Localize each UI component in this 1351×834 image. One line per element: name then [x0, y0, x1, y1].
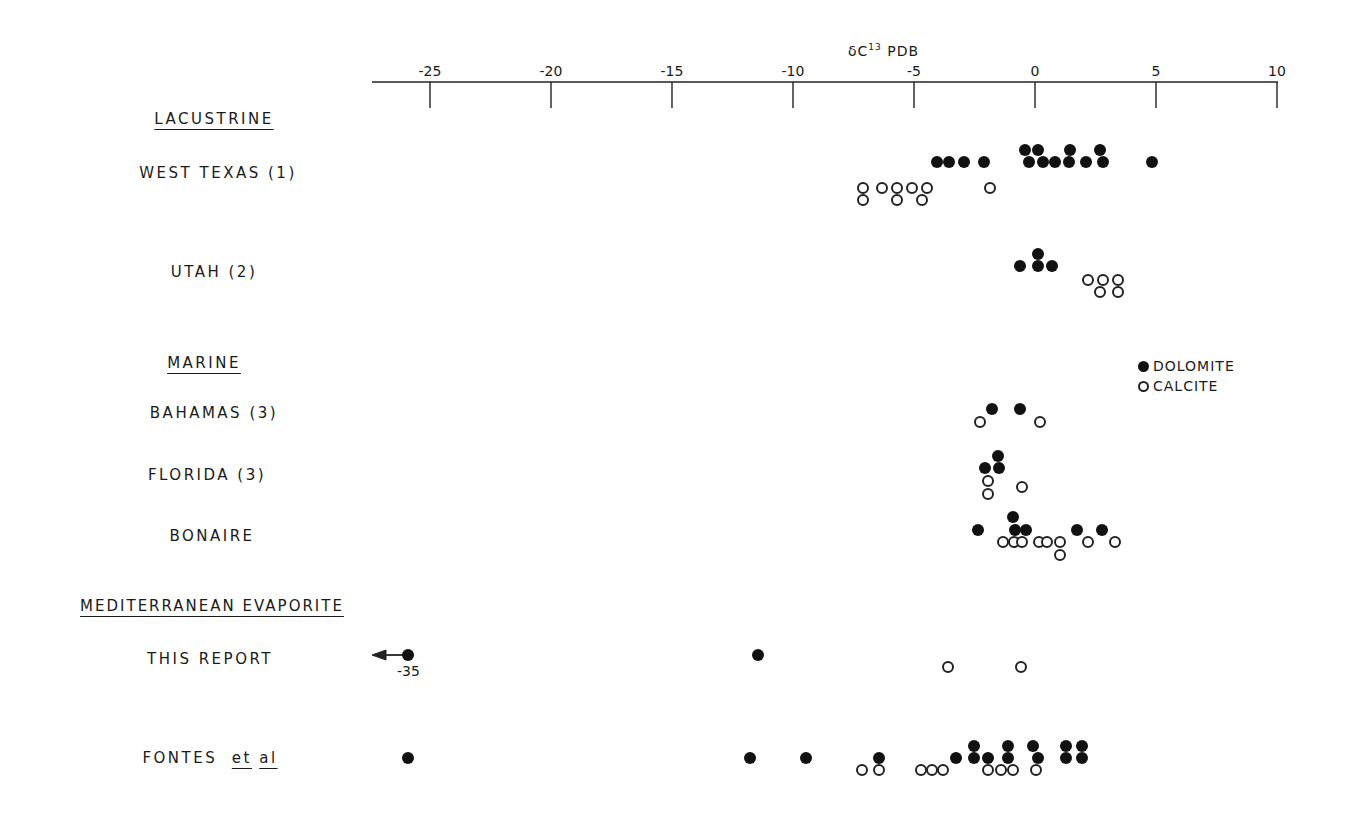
x-tick-label: -25: [419, 63, 442, 79]
legend-item-calcite: CALCITE: [1138, 376, 1235, 396]
dolomite-point: [1014, 403, 1026, 415]
dolomite-point: [1020, 524, 1032, 536]
dolomite-point: [1007, 511, 1019, 523]
x-tick-label: 0: [1031, 63, 1040, 79]
dolomite-point: [1064, 144, 1076, 156]
dolomite-point: [968, 740, 980, 752]
legend-item-dolomite: DOLOMITE: [1138, 356, 1235, 376]
category-bonaire: BONAIRE: [169, 527, 254, 545]
group-header-lacustrine: LACUSTRINE: [154, 110, 273, 128]
dolomite-point: [958, 156, 970, 168]
calcite-point: [857, 182, 869, 194]
dolomite-point: [986, 403, 998, 415]
dolomite-point: [873, 752, 885, 764]
dolomite-point: [1032, 260, 1044, 272]
dolomite-point: [1037, 156, 1049, 168]
x-tick-label: 10: [1268, 63, 1286, 79]
calcite-point: [1054, 536, 1066, 548]
dolomite-point: [402, 649, 414, 661]
x-tick-label: -15: [661, 63, 684, 79]
x-tick-label: 5: [1152, 63, 1161, 79]
calcite-point: [1041, 536, 1053, 548]
calcite-point: [876, 182, 888, 194]
calcite-point: [1030, 764, 1042, 776]
calcite-point: [1112, 286, 1124, 298]
dolomite-point: [943, 156, 955, 168]
dolomite-point: [1032, 248, 1044, 260]
calcite-point: [974, 416, 986, 428]
dolomite-point: [1014, 260, 1026, 272]
dolomite-point: [979, 462, 991, 474]
calcite-point: [1034, 416, 1046, 428]
offscale-value-label: -35: [397, 663, 420, 679]
calcite-point: [916, 194, 928, 206]
dolomite-point: [978, 156, 990, 168]
calcite-point: [1016, 536, 1028, 548]
dolomite-point: [1094, 144, 1106, 156]
dolomite-point: [800, 752, 812, 764]
dolomite-point: [1049, 156, 1061, 168]
dolomite-point: [1002, 740, 1014, 752]
dolomite-point: [1060, 752, 1072, 764]
calcite-point: [1097, 274, 1109, 286]
x-tick-label: -20: [540, 63, 563, 79]
dolomite-point: [1046, 260, 1058, 272]
calcite-point: [982, 475, 994, 487]
category-fontes: FONTES et al: [142, 749, 277, 767]
calcite-point: [857, 194, 869, 206]
dolomite-point: [1063, 156, 1075, 168]
calcite-point: [873, 764, 885, 776]
calcite-point: [1054, 549, 1066, 561]
calcite-point: [921, 182, 933, 194]
dolomite-point: [1076, 740, 1088, 752]
category-bahamas: BAHAMAS (3): [150, 404, 278, 422]
legend: DOLOMITE CALCITE: [1138, 356, 1235, 396]
category-west-texas: WEST TEXAS (1): [139, 164, 296, 182]
offscale-arrow: [372, 650, 404, 660]
category-utah: UTAH (2): [171, 263, 258, 281]
dolomite-point: [1019, 144, 1031, 156]
calcite-point: [1094, 286, 1106, 298]
calcite-point: [891, 194, 903, 206]
dolomite-point: [1032, 144, 1044, 156]
group-header-mediterranean: MEDITERRANEAN EVAPORITE: [80, 597, 344, 615]
calcite-point: [891, 182, 903, 194]
dolomite-point: [1027, 740, 1039, 752]
dolomite-point: [1076, 752, 1088, 764]
calcite-point: [942, 661, 954, 673]
calcite-point: [937, 764, 949, 776]
dolomite-point: [1097, 156, 1109, 168]
calcite-point: [1016, 481, 1028, 493]
dolomite-point: [1002, 752, 1014, 764]
dolomite-point: [1032, 752, 1044, 764]
dolomite-point: [1146, 156, 1158, 168]
dolomite-point: [402, 752, 414, 764]
dolomite-point: [950, 752, 962, 764]
dolomite-point: [1096, 524, 1108, 536]
x-axis-title: δC13 PDB: [848, 42, 919, 59]
calcite-point: [982, 488, 994, 500]
calcite-point: [995, 764, 1007, 776]
dolomite-point: [992, 450, 1004, 462]
dolomite-point: [1071, 524, 1083, 536]
dolomite-point: [744, 752, 756, 764]
filled-circle-icon: [1138, 361, 1149, 372]
calcite-point: [1082, 274, 1094, 286]
calcite-point: [984, 182, 996, 194]
category-this-report: THIS REPORT: [147, 650, 273, 668]
calcite-point: [982, 764, 994, 776]
dolomite-point: [968, 752, 980, 764]
open-circle-icon: [1138, 381, 1149, 392]
dolomite-point: [1060, 740, 1072, 752]
group-header-marine: MARINE: [167, 354, 241, 372]
calcite-point: [906, 182, 918, 194]
calcite-point: [1082, 536, 1094, 548]
x-tick-label: -5: [907, 63, 921, 79]
calcite-point: [856, 764, 868, 776]
dolomite-point: [972, 524, 984, 536]
x-tick-label: -10: [782, 63, 805, 79]
dolomite-point: [752, 649, 764, 661]
dolomite-point: [1080, 156, 1092, 168]
dolomite-point: [982, 752, 994, 764]
dolomite-point: [993, 462, 1005, 474]
